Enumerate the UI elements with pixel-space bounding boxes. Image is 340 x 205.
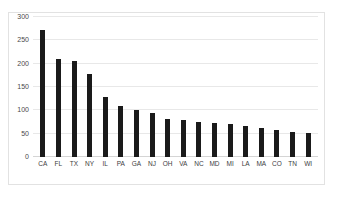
bar-slot: CO (269, 17, 285, 157)
bar (259, 128, 264, 157)
x-axis-tick-label: WI (304, 161, 312, 168)
bar-slot: NY (82, 17, 98, 157)
bar (290, 132, 295, 157)
bar-slot: LA (238, 17, 254, 157)
bar-slot: GA (129, 17, 145, 157)
chart-plot-frame: 050100150200250300 CAFLTXNYILPAGANJOHVAN… (8, 12, 325, 185)
bar-slot: FL (51, 17, 67, 157)
bar-slot: TX (66, 17, 82, 157)
y-axis-tick-label: 250 (17, 36, 29, 43)
x-axis-tick-label: OH (163, 161, 173, 168)
bar (87, 74, 92, 157)
bar (243, 126, 248, 157)
bar (40, 30, 45, 157)
bar (118, 106, 123, 157)
y-axis-tick-label: 0 (25, 153, 29, 160)
bar (56, 59, 61, 157)
x-axis-tick-label: VA (179, 161, 187, 168)
x-axis-tick-label: MI (226, 161, 233, 168)
y-axis-tick-label: 150 (17, 83, 29, 90)
bar-slot: TN (285, 17, 301, 157)
x-axis-tick-label: CO (272, 161, 282, 168)
bar-series: CAFLTXNYILPAGANJOHVANCMDMILAMACOTNWI (33, 17, 318, 157)
bar (212, 123, 217, 157)
bar (274, 130, 279, 157)
x-axis-tick-label: NJ (148, 161, 156, 168)
bar-slot: VA (175, 17, 191, 157)
x-axis-tick-label: IL (103, 161, 108, 168)
x-axis-tick-label: CA (38, 161, 47, 168)
bar (72, 61, 77, 157)
x-axis-tick-label: TN (288, 161, 297, 168)
bar-slot: PA (113, 17, 129, 157)
x-axis-tick-label: MA (256, 161, 266, 168)
bar-slot: MA (254, 17, 270, 157)
bar (181, 120, 186, 157)
bar (103, 97, 108, 157)
x-axis-tick-label: MD (209, 161, 219, 168)
bar (134, 110, 139, 157)
bar-slot: NC (191, 17, 207, 157)
bar (228, 124, 233, 157)
x-axis-tick-label: TX (70, 161, 78, 168)
bar-slot: CA (35, 17, 51, 157)
bar-slot: MD (207, 17, 223, 157)
bar-slot: MI (222, 17, 238, 157)
plot-area: 050100150200250300 CAFLTXNYILPAGANJOHVAN… (33, 17, 318, 157)
bar-slot: OH (160, 17, 176, 157)
x-axis-tick-label: PA (117, 161, 125, 168)
y-axis-tick-label: 50 (21, 129, 29, 136)
figure: 050100150200250300 CAFLTXNYILPAGANJOHVAN… (0, 0, 340, 205)
y-axis-tick-label: 200 (17, 59, 29, 66)
bar-slot: WI (300, 17, 316, 157)
y-axis-tick-label: 100 (17, 106, 29, 113)
x-axis-tick-label: NC (194, 161, 203, 168)
x-axis-tick-label: LA (242, 161, 250, 168)
bar-slot: NJ (144, 17, 160, 157)
x-axis-tick-label: GA (132, 161, 141, 168)
x-axis-tick-label: FL (55, 161, 63, 168)
bar (150, 113, 155, 157)
bar (306, 133, 311, 157)
x-axis-tick-label: NY (85, 161, 94, 168)
bar-slot: IL (97, 17, 113, 157)
y-axis-tick-label: 300 (17, 13, 29, 20)
bar (165, 119, 170, 157)
bar (196, 122, 201, 157)
